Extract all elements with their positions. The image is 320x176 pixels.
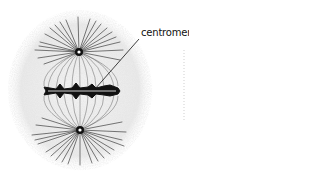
centromere-label: centromere bbox=[141, 27, 189, 38]
